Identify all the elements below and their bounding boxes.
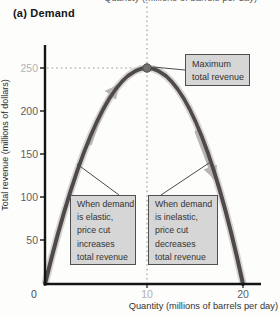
y-tick-label-100: 100 <box>8 191 38 203</box>
elastic-callout-line: increases <box>77 238 135 251</box>
inelastic-callout-line: When demand <box>155 198 217 211</box>
max-point-marker <box>143 64 151 72</box>
inelastic-callout-line: decreases <box>155 238 217 251</box>
y-axis-title: Total revenue (millions of dollars) <box>0 45 12 245</box>
inelastic-callout-line: price cut <box>155 224 217 237</box>
y-tick-label-200: 200 <box>8 105 38 117</box>
inelastic-callout-pointer <box>161 163 209 195</box>
x-axis-title: Quantity (millions of barrels per day) <box>129 301 278 311</box>
x-tick-label-10: 10 <box>137 288 157 300</box>
y-tick-label-150: 150 <box>8 148 38 160</box>
elastic-callout-line: total revenue <box>77 251 135 264</box>
elastic-callout: When demand is elastic, price cut increa… <box>70 195 136 265</box>
max-revenue-callout-line: Maximum <box>192 58 249 71</box>
elastic-callout-line: is elastic, <box>77 211 135 224</box>
origin-label: 0 <box>28 288 40 300</box>
max-revenue-callout: Maximum total revenue <box>185 54 250 86</box>
elastic-callout-pointer <box>77 164 119 195</box>
y-tick-label-250: 250 <box>8 62 38 74</box>
elastic-callout-line: price cut <box>77 224 135 237</box>
inelastic-callout-line: is inelastic, <box>155 211 217 224</box>
x-tick-label-20: 20 <box>233 288 253 300</box>
total-revenue-figure: Quantity (millions of barrels per day) <box>0 0 280 318</box>
inelastic-callout: When demand is inelastic, price cut decr… <box>148 195 218 265</box>
inelastic-callout-line: total revenue <box>155 251 217 264</box>
panel-title: (a) Demand <box>13 7 75 19</box>
chart-canvas <box>0 0 280 318</box>
y-tick-label-50: 50 <box>8 234 38 246</box>
elastic-callout-line: When demand <box>77 198 135 211</box>
max-revenue-callout-line: total revenue <box>192 71 249 84</box>
